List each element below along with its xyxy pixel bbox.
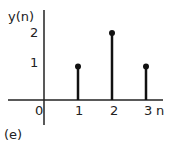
- y-tick-2: 2: [30, 26, 38, 39]
- stem-marker: [143, 64, 149, 70]
- x-tick-1: 1: [75, 104, 83, 117]
- stem-marker: [75, 64, 81, 70]
- y-tick-1: 1: [30, 56, 38, 69]
- x-tick-0: 0: [35, 104, 43, 117]
- x-tick-2: 2: [110, 104, 118, 117]
- figure-caption: (e): [4, 128, 22, 141]
- y-axis-label: y(n): [8, 10, 34, 23]
- x-tick-3: 3: [144, 104, 152, 117]
- x-axis-label: n: [156, 104, 164, 117]
- stems: [75, 30, 149, 100]
- stem-marker: [109, 30, 115, 36]
